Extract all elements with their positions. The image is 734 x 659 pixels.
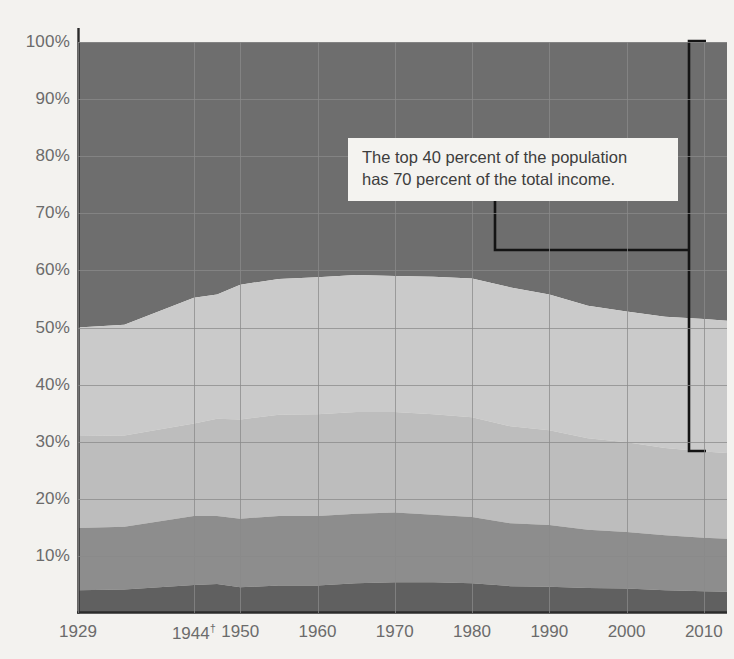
x-tick-label: 1990 xyxy=(530,622,568,642)
x-tick-label: 1980 xyxy=(453,622,491,642)
annotation-line-1: The top 40 percent of the population xyxy=(362,147,666,169)
x-tick-label: 1944† xyxy=(172,622,216,644)
annotation-line-2: has 70 percent of the total income. xyxy=(362,169,666,191)
x-tick-label: 1970 xyxy=(376,622,414,642)
x-tick-label: 1929 xyxy=(59,622,97,642)
x-tick-label: 1960 xyxy=(299,622,337,642)
x-tick-label: 2010 xyxy=(685,622,723,642)
x-tick-label: 1950 xyxy=(221,622,259,642)
annotation-callout: The top 40 percent of the population has… xyxy=(348,138,678,201)
x-axis-tick-labels: 19291944†1950196019701980199020002010 xyxy=(0,0,734,659)
x-tick-label: 2000 xyxy=(608,622,646,642)
